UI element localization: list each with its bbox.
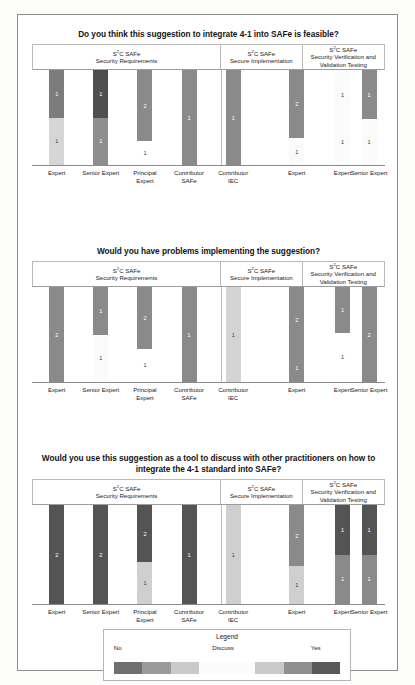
axis-label: Expert [37,608,77,616]
bar-segment-value: 2 [289,533,304,539]
legend-swatch-7 [284,662,312,674]
axis-label: Contributor IEC [213,169,253,184]
axis-label: Contributor SAFe [169,608,209,623]
bar-segment: 1 [93,118,108,166]
axis-label: Contributor SAFe [169,386,209,401]
axis-label: Expert [37,169,77,177]
legend-label-3: Yes [311,644,321,652]
axis-label: Contributor IEC [213,608,253,623]
bar-segment-value: 1 [49,138,64,144]
axis-label: Expert [277,386,317,394]
bar-segment-value: 2 [49,332,64,338]
bar-segment-value: 1 [93,91,108,97]
axis-label: Principal Expert [125,386,165,401]
bar-segment: 1 [362,70,377,119]
axis-label: Principal Expert [125,169,165,184]
bar: 1 [182,505,197,604]
bar-segment-value: 2 [362,332,377,338]
bar-segment-value: 1 [93,308,108,314]
bar-segment-value: 1 [289,582,304,588]
bar-segment: 1 [93,70,108,118]
bar: 21 [289,287,304,382]
bar-segment: 2 [289,505,304,566]
bar-segment: 2 [289,70,304,138]
bar-segment-value: 1 [335,576,350,582]
group-header-line1: S2C SAFe [247,485,275,492]
group-header-line1: S2C SAFe [329,481,357,488]
axis-label: Senior Expert [81,386,121,394]
bar-segment: 2 [137,505,152,562]
bar-segment-value: 2 [93,552,108,558]
group-header-1: S2C SAFeSecurity Requirements [33,480,221,504]
bar-segment: 2 [362,287,377,382]
bar-segment: 1 [226,505,241,604]
bar-segment-value: 1 [182,552,197,558]
axis-label-row: ExpertSenior ExpertPrincipal ExpertContr… [32,383,385,407]
bar-segment: 1 [335,119,350,165]
figure-page: Do you think this suggestion to integrat… [0,0,415,685]
group-header-line2: Secure Implementation [230,274,293,281]
legend-label-2: Discuss [212,644,234,652]
bar-segment: 1 [137,562,152,604]
group-header-row: S2C SAFeSecurity RequirementsS2C SAFeSec… [32,44,385,70]
group-header-line2: Security Verification and Validation Tes… [305,270,382,285]
group-header-row: S2C SAFeSecurity RequirementsS2C SAFeSec… [32,479,385,505]
bar-segment: 2 [93,505,108,604]
bar: 11 [335,287,350,382]
chart-block-3: Would you use this suggestion as a tool … [18,453,399,629]
bar-segment-value: 1 [226,115,241,121]
bar-segment-value: 1 [335,139,350,145]
axis-label: Contributor IEC [213,386,253,401]
bar: 11 [93,70,108,165]
bar-segment: 1 [335,70,350,119]
bar-segment: 1 [362,555,377,605]
bar: 1 [226,505,241,604]
group-header-line2: Security Requirements [96,274,158,281]
bar-segment-value: 1 [93,355,108,361]
axis-label: Expert [277,169,317,177]
group-header-3: S2C SAFeSecurity Verification and Valida… [303,45,384,69]
bar: 21 [137,287,152,382]
superscript-two: 2 [333,45,335,50]
bar: 11 [335,505,350,604]
bar-segment: 1 [182,70,197,165]
group-header-line2: Security Requirements [96,492,158,499]
bar-segment-value: 1 [335,354,350,360]
superscript-two: 2 [117,49,119,54]
bar: 1 [182,70,197,165]
group-header-line2: Security Verification and Validation Tes… [305,488,382,503]
bar-segment: 1 [289,138,304,165]
group-header-line2: Security Verification and Validation Tes… [305,53,382,68]
axis-label: Senior Expert [81,169,121,177]
bar-segment-value: 1 [226,332,241,338]
plot-area: 11112111211111 [32,70,385,166]
group-header-line2: Security Requirements [96,57,158,64]
legend-title: Legend [104,633,350,641]
bar: 21 [289,70,304,165]
superscript-two: 2 [252,49,254,54]
chart-title: Would you have problems implementing the… [18,246,399,257]
chart-title: Would you use this suggestion as a tool … [18,453,399,475]
legend-swatch-1 [114,662,142,674]
legend-swatch-6 [255,662,283,674]
group-header-2: S2C SAFeSecure Implementation [221,45,302,69]
bar-segment: 1 [137,349,152,382]
bar-segment-value: 1 [137,362,152,368]
legend-label-1: No [114,644,122,652]
bar: 21 [137,70,152,165]
group-header-3: S2C SAFeSecurity Verification and Valida… [303,480,384,504]
bar-segment-value: 2 [289,317,304,323]
bar-segment: 1 [226,70,241,165]
bar-segment-value: 1 [49,91,64,97]
bar-segment-value: 1 [182,332,197,338]
bar-segment-value: 2 [137,531,152,537]
group-header-line2: Secure Implementation [230,57,293,64]
legend: Legend NoDiscussYes [103,629,351,681]
bar: 1 [226,70,241,165]
bar-segment: 2 [137,287,152,349]
bar-segment-value: 1 [226,552,241,558]
bar-segment: 1 [137,141,152,165]
bar-segment: 1 [362,119,377,165]
bar: 11 [93,287,108,382]
bar: 2 [362,287,377,382]
